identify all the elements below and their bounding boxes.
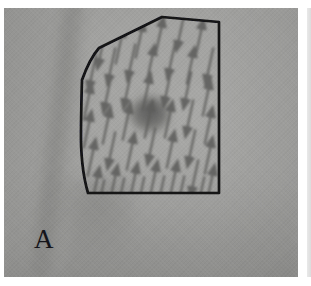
arrow-shaft (150, 128, 156, 154)
arrow-shaft (179, 176, 185, 202)
arrow-shaft (103, 117, 109, 143)
arrow-shaft (84, 121, 90, 147)
arrow-head (167, 128, 178, 142)
arrow-shaft (92, 177, 98, 203)
arrow-shaft (139, 177, 145, 203)
arrow-shaft (110, 48, 116, 74)
arrow-head (193, 203, 204, 217)
arrow-shaft (159, 176, 165, 202)
arrow-shaft (199, 177, 205, 203)
panel-letter-a: A (34, 226, 54, 253)
arrow-head (205, 104, 216, 118)
arrow-shaft (110, 132, 116, 158)
adjacent-panel-edge (307, 8, 311, 277)
arrow-shaft (88, 149, 94, 175)
arrow-head (196, 16, 207, 30)
arrow-head (207, 162, 218, 176)
arrow-shaft (193, 160, 199, 186)
arrow-head (113, 204, 124, 218)
arrow-head (187, 44, 198, 58)
arrow-head (173, 202, 184, 216)
arrow-head (147, 42, 158, 56)
arrow-shaft (188, 100, 194, 126)
arrow-shaft (130, 44, 136, 70)
arrow-head (182, 126, 193, 140)
arrow-head (170, 158, 181, 172)
arrow-head (130, 160, 141, 174)
arrow-shaft (136, 31, 142, 57)
arrow-shaft (170, 42, 176, 68)
arrow-head (92, 164, 103, 178)
arrow-head (184, 156, 195, 170)
arrow-head (153, 202, 164, 216)
arrow-shaft (167, 141, 173, 167)
arrow-shaft (207, 175, 213, 201)
arrow-shaft (205, 147, 211, 173)
arrow-head (88, 136, 99, 150)
arrow-shaft (127, 143, 133, 169)
arrow-shaft (208, 48, 214, 74)
arrow-shaft (190, 130, 196, 156)
figure-panel-a: A (0, 0, 311, 286)
arrow-shaft (116, 37, 122, 63)
arrow-shaft (156, 27, 162, 53)
arrow-head (127, 130, 138, 144)
arrow-shaft (110, 175, 116, 201)
arrow-shaft (130, 173, 136, 199)
arrow-shaft (196, 29, 202, 55)
arrow-head (133, 203, 144, 217)
arrow-shaft (119, 178, 125, 204)
arrow-head (180, 98, 191, 112)
arrow-head (93, 206, 104, 220)
arrow-shaft (123, 113, 129, 139)
clinical-photograph: A (4, 8, 298, 277)
arrow-shaft (203, 89, 209, 115)
